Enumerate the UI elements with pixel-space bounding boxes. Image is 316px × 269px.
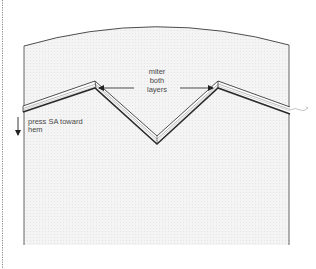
thread-tail (290, 107, 308, 111)
sewing-diagram: miter both layers press SA toward hem (0, 0, 316, 269)
miter-label-line2: both (150, 76, 165, 85)
press-label-line2: hem (28, 125, 43, 134)
miter-label-line1: miter (149, 67, 166, 76)
miter-label-line3: layers (147, 85, 167, 94)
